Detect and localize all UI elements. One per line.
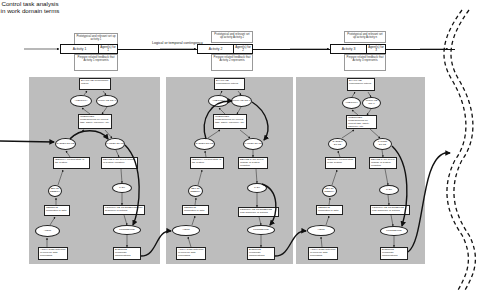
connector-overlay [0, 0, 487, 292]
continuation-break-lines [444, 10, 475, 290]
